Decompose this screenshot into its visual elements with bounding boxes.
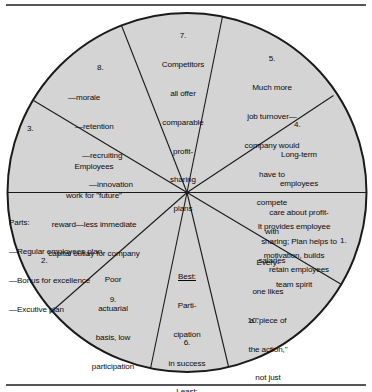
segment-9-text: Poor actuarial basis, low participation [80,256,146,390]
segment-5-line-2: company would [217,141,327,151]
segment-10-line-0: Every- [222,258,314,268]
segment-5-line-1: job turnover— [217,112,327,122]
segment-8-line-2: —recruiting [68,151,168,161]
segment-5-line-3: have to [217,170,327,180]
segment-3-number: 3. [27,124,51,134]
segment-6-line-1: Parti- [149,301,225,311]
segment-9-number: 9. [80,295,146,305]
segment-10-line-1: one likes [222,287,314,297]
segment-9-line-1: actuarial [80,304,146,314]
segment-5-number: 5. [217,54,327,64]
segment-6-line-3: in success [149,359,225,369]
segment-5-line-5: with [217,227,327,237]
segment-8-number: 8. [97,63,121,73]
segment-7-line-0: Competitors [135,60,231,70]
segment-6-line-0: Best: [149,272,225,282]
segment-5-line-4: compete [217,198,327,208]
segment-6-line-4: Least: [149,387,225,392]
segment-6-text: Best: Parti- cipation in success Least: … [149,253,225,392]
segment-9-line-0: Poor [80,275,146,285]
segment-6-number: 6. [149,338,225,348]
segment-10-number: 10. [222,316,284,326]
segment-8-line-0: —morale [68,93,168,103]
segment-7-number: 7. [135,31,231,41]
segment-9-line-3: participation [80,362,146,372]
profit-sharing-wheel-figure: It provides employee motivation, builds … [0,0,372,392]
segment-5-line-0: Much more [217,83,327,93]
segment-8-text: —morale —retention —recruiting —innovati… [68,74,168,208]
segment-8-line-1: —retention [68,122,168,132]
segment-9-line-2: basis, low [80,333,146,343]
segment-10-line-4: not just [222,373,314,383]
segment-10-line-3: the action," [222,345,314,355]
segment-8-line-3: —innovation [68,180,168,190]
